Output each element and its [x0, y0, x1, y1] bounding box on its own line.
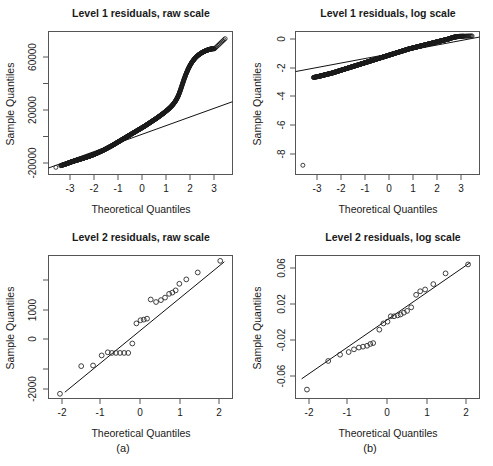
y-axis-label: Sample Quantiles — [4, 63, 16, 146]
subcaption-a: (a) — [0, 442, 246, 454]
data-point — [91, 363, 96, 368]
x-tick-label: 1 — [177, 407, 183, 418]
x-tick-label: -3 — [66, 183, 75, 194]
y-tick-label: 20000 — [27, 96, 38, 124]
x-tick-label: -1 — [343, 407, 352, 418]
y-tick-labels: 1000 0 -2000 — [27, 298, 38, 401]
data-point — [130, 341, 135, 346]
qq-plot-figure: Level 1 residuals, raw scale Theoretical… — [0, 0, 493, 466]
x-tick-label: -1 — [361, 183, 370, 194]
reference-line — [65, 262, 224, 392]
x-tick-label: -1 — [114, 183, 123, 194]
data-point — [352, 347, 357, 352]
y-tick-label: -6 — [276, 120, 287, 129]
data-point — [154, 300, 159, 305]
panel-level2-log-svg: Level 2 residuals, log scale Theoretical… — [247, 224, 493, 444]
x-tick-label: 0 — [386, 183, 392, 194]
data-point — [346, 350, 351, 355]
subcaption-b: (b) — [247, 442, 493, 454]
y-tick-label: 0.06 — [276, 258, 287, 278]
x-axis-label: Theoretical Quantiles — [91, 203, 190, 215]
y-tick-label: 0 — [276, 36, 287, 42]
data-point — [414, 292, 419, 297]
x-tick-label: 2 — [187, 183, 193, 194]
y-tick-label: 0.02 — [276, 294, 287, 314]
data-point — [409, 305, 414, 310]
x-axis-label: Theoretical Quantiles — [338, 203, 437, 215]
y-tick-label: -2 — [276, 63, 287, 72]
panel-level2-raw-svg: Level 2 residuals, raw scale Theoretical… — [0, 224, 246, 444]
y-tick-labels: 60000 20000 -20000 — [27, 43, 38, 179]
data-point — [79, 364, 84, 369]
x-tick-label: -2 — [58, 407, 67, 418]
panel-title: Level 2 residuals, raw scale — [72, 231, 210, 243]
panel-title: Level 1 residuals, raw scale — [72, 7, 210, 19]
data-point — [218, 258, 223, 263]
y-tick-label: -4 — [276, 91, 287, 100]
x-tick-label: 1 — [424, 407, 430, 418]
y-tick-label: 60000 — [27, 43, 38, 71]
y-tick-label: -0.06 — [276, 364, 287, 387]
qq-reference-line — [65, 262, 224, 392]
data-points — [305, 262, 471, 392]
y-tick-label: -8 — [276, 149, 287, 158]
x-tick-label: 3 — [458, 183, 464, 194]
data-point — [184, 277, 189, 282]
panel-title: Level 1 residuals, log scale — [320, 7, 456, 19]
x-tick-label: 2 — [434, 183, 440, 194]
plot-box — [296, 256, 480, 399]
panel-level1-raw-svg: Level 1 residuals, raw scale Theoretical… — [0, 0, 246, 220]
data-point — [54, 165, 58, 169]
y-axis-label: Sample Quantiles — [251, 287, 263, 370]
data-point — [423, 287, 428, 292]
panel-level1-raw: Level 1 residuals, raw scale Theoretical… — [0, 0, 246, 220]
x-tick-labels: -3 -2 -1 0 1 2 3 — [313, 183, 465, 194]
y-tick-labels: -0.06 -0.02 0.02 0.06 — [276, 258, 287, 388]
data-point — [148, 297, 153, 302]
data-points — [58, 258, 223, 396]
x-tick-label: -2 — [305, 407, 314, 418]
data-point — [338, 352, 343, 357]
x-tick-label: -2 — [337, 183, 346, 194]
plot-box — [49, 256, 233, 399]
data-point — [371, 341, 376, 346]
data-point — [163, 295, 168, 300]
y-tick-marks — [43, 280, 48, 389]
panel-title: Level 2 residuals, log scale — [325, 231, 461, 243]
data-point — [431, 282, 436, 287]
data-point — [301, 163, 305, 167]
x-tick-label: -3 — [313, 183, 322, 194]
panel-level1-log-svg: Level 1 residuals, log scale Theoretical… — [247, 0, 493, 220]
x-tick-label: 2 — [216, 407, 222, 418]
data-point — [141, 317, 146, 322]
x-tick-marks — [70, 175, 214, 180]
y-tick-label: 1000 — [27, 298, 38, 321]
y-tick-label: -20000 — [27, 147, 38, 179]
x-tick-label: 1 — [410, 183, 416, 194]
y-axis-label: Sample Quantiles — [4, 287, 16, 370]
x-tick-marks — [309, 399, 466, 404]
panel-level2-raw: Level 2 residuals, raw scale Theoretical… — [0, 224, 246, 444]
x-tick-marks — [62, 399, 219, 404]
x-axis-label: Theoretical Quantiles — [338, 427, 437, 439]
y-axis-label: Sample Quantiles — [251, 63, 263, 146]
y-tick-label: 0 — [27, 336, 38, 342]
data-point — [443, 271, 448, 276]
data-points — [301, 34, 474, 167]
data-points — [54, 37, 227, 170]
x-tick-label: -2 — [90, 183, 99, 194]
x-tick-labels: -3 -2 -1 0 1 2 3 — [66, 183, 218, 194]
x-tick-label: -1 — [96, 407, 105, 418]
qq-reference-line — [302, 263, 470, 379]
x-tick-marks — [317, 175, 461, 180]
y-tick-marks — [290, 39, 295, 154]
x-tick-label: 0 — [384, 407, 390, 418]
panel-level1-log: Level 1 residuals, log scale Theoretical… — [247, 0, 493, 220]
data-point — [377, 327, 382, 332]
x-tick-label: 0 — [139, 183, 145, 194]
y-tick-label: -2000 — [27, 376, 38, 402]
x-tick-label: 2 — [463, 407, 469, 418]
y-tick-marks — [43, 57, 48, 163]
plot-box — [296, 32, 480, 175]
data-point — [305, 387, 310, 392]
